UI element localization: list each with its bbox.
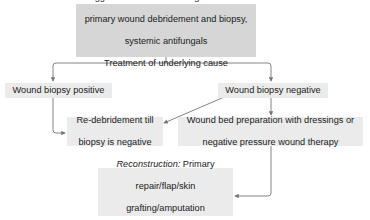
node-initial-treatment-line-4: Treatment of underlying cause bbox=[85, 58, 248, 69]
node-initial-treatment-line-3: systemic antifungals bbox=[85, 36, 248, 47]
node-reconstruction-line-3: grafting/amputation bbox=[116, 203, 214, 214]
node-initial-treatment-line-2: primary wound debridement and biopsy, bbox=[85, 14, 248, 25]
node-reconstruction-line-1-rest: Primary bbox=[180, 159, 214, 169]
node-reconstruction-heading: Reconstruction: bbox=[116, 159, 180, 169]
node-initial-treatment: Aggressive cutaneous fungal infection pr… bbox=[76, 4, 256, 57]
node-biopsy-negative: Wound biopsy negative bbox=[218, 83, 328, 98]
node-biopsy-positive-label: Wound biopsy positive bbox=[13, 85, 105, 96]
node-reconstruction-line-1: Reconstruction: Primary bbox=[116, 148, 214, 170]
node-biopsy-negative-label: Wound biopsy negative bbox=[225, 85, 320, 96]
node-wound-bed-line-1: Wound bed preparation with dressings or bbox=[187, 115, 354, 126]
node-reconstruction: Reconstruction: Primary repair/flap/skin… bbox=[98, 168, 233, 216]
node-biopsy-positive: Wound biopsy positive bbox=[5, 83, 112, 98]
node-reconstruction-line-2: repair/flap/skin bbox=[116, 181, 214, 192]
node-redebridement-line-1: Re-debridement till bbox=[76, 115, 153, 126]
node-initial-treatment-line-1: Aggressive cutaneous fungal infection bbox=[85, 0, 248, 3]
edge-positive-to-redebridement bbox=[53, 98, 65, 133]
